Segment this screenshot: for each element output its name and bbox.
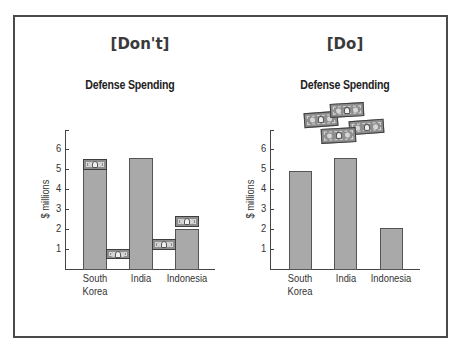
y-tick-label: 3 bbox=[258, 202, 267, 214]
y-tick-label: 1 bbox=[53, 242, 62, 254]
x-label-south-korea-do: South Korea bbox=[279, 272, 322, 298]
x-label-south-korea-dont: South Korea bbox=[74, 272, 117, 298]
y-tick bbox=[65, 229, 69, 230]
y-tick-label: 6 bbox=[53, 142, 62, 154]
dollar-bill-icon bbox=[106, 249, 130, 259]
bar-india-do bbox=[334, 158, 357, 270]
bar-south-korea-dont bbox=[83, 169, 107, 270]
bar-south-korea-do bbox=[289, 171, 312, 270]
dollar-bill-icon bbox=[330, 102, 365, 118]
y-tick-label: 6 bbox=[258, 142, 267, 154]
y-tick bbox=[65, 209, 69, 210]
y-axis-cap-do bbox=[270, 130, 274, 131]
y-tick bbox=[65, 149, 69, 150]
chart-title-do: Defense Spending bbox=[283, 78, 406, 92]
dollar-bill-icon bbox=[321, 127, 357, 144]
y-tick-label: 4 bbox=[53, 182, 62, 194]
y-tick bbox=[65, 249, 69, 250]
y-tick-label: 2 bbox=[53, 222, 62, 234]
y-tick bbox=[65, 169, 69, 170]
y-tick bbox=[270, 169, 274, 170]
y-axis-label-do: $ millions bbox=[244, 180, 256, 219]
y-tick-label: 1 bbox=[258, 242, 267, 254]
y-tick bbox=[270, 249, 274, 250]
y-tick-label: 5 bbox=[258, 162, 267, 174]
x-label-indonesia-do: Indonesia bbox=[370, 272, 413, 285]
bar-indonesia-dont bbox=[175, 229, 199, 270]
dollar-bill-icon bbox=[175, 216, 199, 227]
x-label-india-dont: India bbox=[120, 272, 163, 285]
dollar-bill-icon bbox=[152, 239, 176, 250]
x-label-india-do: India bbox=[325, 272, 368, 285]
y-tick-label: 5 bbox=[53, 162, 62, 174]
y-tick-label: 2 bbox=[258, 222, 267, 234]
y-tick bbox=[65, 189, 69, 190]
y-axis-cap-dont bbox=[65, 130, 69, 131]
y-tick bbox=[270, 189, 274, 190]
panel-heading-do: [Do] bbox=[285, 35, 405, 53]
panel-heading-dont: [Don't] bbox=[80, 35, 200, 53]
y-tick bbox=[270, 209, 274, 210]
y-tick bbox=[270, 149, 274, 150]
y-axis-label-dont: $ millions bbox=[39, 180, 51, 219]
y-tick bbox=[270, 229, 274, 230]
chart-title-dont: Defense Spending bbox=[68, 78, 191, 92]
x-label-indonesia-dont: Indonesia bbox=[166, 272, 209, 285]
y-tick-label: 3 bbox=[53, 202, 62, 214]
y-tick-label: 4 bbox=[258, 182, 267, 194]
bar-indonesia-do bbox=[380, 228, 403, 270]
bar-india-dont bbox=[129, 158, 153, 270]
dollar-bill-icon bbox=[83, 159, 107, 170]
